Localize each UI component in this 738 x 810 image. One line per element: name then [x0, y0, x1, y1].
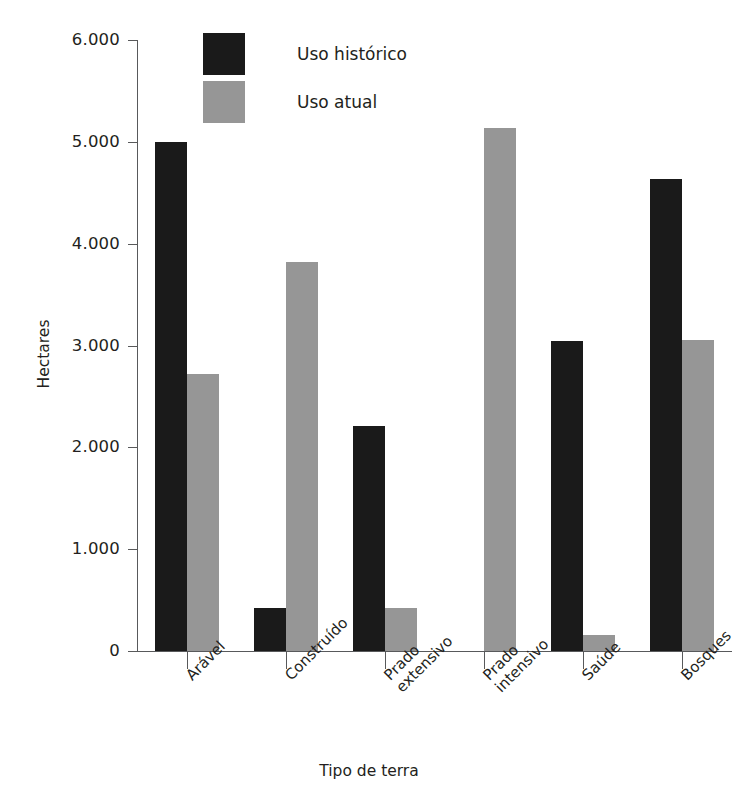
y-axis-tick-label: 6.000 — [14, 32, 120, 49]
legend-item: Uso atual — [203, 78, 407, 126]
x-axis-title: Tipo de terra — [0, 762, 738, 780]
y-axis-tick-label: 3.000 — [14, 338, 120, 355]
bar — [353, 426, 385, 651]
legend-item-label: Uso atual — [297, 92, 377, 112]
bar — [650, 179, 682, 652]
bar — [187, 374, 219, 651]
y-axis-tick-mark — [128, 549, 137, 550]
legend: Uso históricoUso atual — [203, 30, 407, 126]
bar — [254, 608, 286, 651]
y-axis-tick-label: 2.000 — [14, 439, 120, 456]
y-axis-tick-label: 4.000 — [14, 236, 120, 253]
legend-item: Uso histórico — [203, 30, 407, 78]
y-axis-tick-mark — [128, 651, 137, 652]
bar — [682, 340, 714, 651]
y-axis-tick-label: 5.000 — [14, 134, 120, 151]
plot-area — [137, 40, 732, 651]
y-axis-title: Hectares — [35, 294, 53, 414]
y-axis-tick-mark — [128, 40, 137, 41]
y-axis-tick-mark — [128, 142, 137, 143]
bar — [155, 142, 187, 651]
bar — [484, 128, 516, 651]
y-axis-tick-mark — [128, 346, 137, 347]
legend-swatch-icon — [203, 81, 245, 123]
bar — [551, 341, 583, 651]
legend-item-label: Uso histórico — [297, 44, 407, 64]
legend-swatch-icon — [203, 33, 245, 75]
bar-chart: 6.0005.0004.0003.0002.0001.0000 Hectares… — [0, 0, 738, 810]
y-axis-tick-label: 1.000 — [14, 541, 120, 558]
y-axis-tick-mark — [128, 447, 137, 448]
y-axis-tick-mark — [128, 244, 137, 245]
y-axis-tick-label: 0 — [14, 643, 120, 660]
bar — [286, 262, 318, 651]
